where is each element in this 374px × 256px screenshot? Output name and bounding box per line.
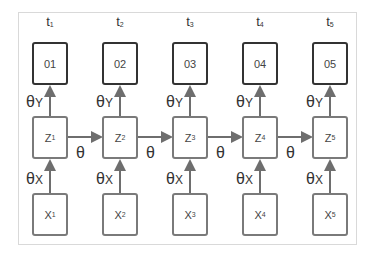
theta-y-label-3: θY xyxy=(166,94,183,110)
theta-transition-label-3: θ xyxy=(216,145,225,161)
theta-transition-label-2: θ xyxy=(146,145,155,161)
hidden-node-2: Z2 xyxy=(102,116,138,159)
hidden-node-3: Z3 xyxy=(172,116,208,159)
hidden-node-1: Z1 xyxy=(32,116,68,159)
hidden-node-4: Z4 xyxy=(242,116,278,159)
theta-y-label-5: θY xyxy=(306,94,323,110)
hidden-node-5: Z5 xyxy=(312,116,348,159)
theta-y-label-2: θY xyxy=(96,94,113,110)
output-node-4: 04 xyxy=(242,42,278,85)
input-node-3: X3 xyxy=(172,193,208,236)
time-label-2: t2 xyxy=(102,14,138,29)
theta-x-label-5: θX xyxy=(306,171,323,187)
theta-x-label-1: θX xyxy=(26,171,43,187)
input-node-4: X4 xyxy=(242,193,278,236)
time-label-4: t4 xyxy=(242,14,278,29)
theta-x-label-2: θX xyxy=(96,171,113,187)
output-node-3: 03 xyxy=(172,42,208,85)
time-label-1: t1 xyxy=(32,14,68,29)
theta-y-label-4: θY xyxy=(236,94,253,110)
input-node-2: X2 xyxy=(102,193,138,236)
theta-y-label-1: θY xyxy=(26,94,43,110)
theta-transition-label-1: θ xyxy=(76,145,85,161)
output-node-1: 01 xyxy=(32,42,68,85)
time-label-3: t3 xyxy=(172,14,208,29)
input-node-1: X1 xyxy=(32,193,68,236)
theta-x-label-3: θX xyxy=(166,171,183,187)
output-node-2: 02 xyxy=(102,42,138,85)
output-node-5: 05 xyxy=(312,42,348,85)
input-node-5: X5 xyxy=(312,193,348,236)
theta-x-label-4: θX xyxy=(236,171,253,187)
time-label-5: t5 xyxy=(312,14,348,29)
theta-transition-label-4: θ xyxy=(286,145,295,161)
